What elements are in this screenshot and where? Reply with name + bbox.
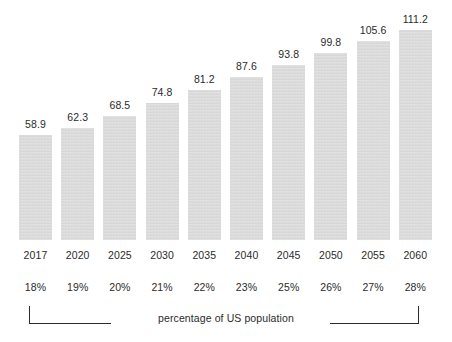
bracket-annotation-row: percentage of US population	[0, 306, 452, 336]
x-axis-percent-label: 19%	[54, 281, 101, 293]
x-axis-year-labels: 2017202020252030203520402045205020552060	[0, 249, 452, 263]
bar[interactable]	[19, 135, 52, 240]
x-axis-percent-label: 23%	[223, 281, 270, 293]
bar-value-label: 87.6	[223, 60, 270, 72]
bar-value-label: 74.8	[139, 86, 186, 98]
x-axis-year-label: 2045	[265, 249, 312, 261]
bar-value-label: 58.9	[12, 118, 59, 130]
bar[interactable]	[61, 128, 94, 240]
bar-group: 68.5	[103, 0, 136, 240]
bar-value-label: 93.8	[265, 48, 312, 60]
x-axis-percent-label: 25%	[265, 281, 312, 293]
bar-group: 74.8	[146, 0, 179, 240]
bar-value-label: 62.3	[54, 111, 101, 123]
bar-group: 81.2	[188, 0, 221, 240]
bar-group: 58.9	[19, 0, 52, 240]
bar-group: 105.6	[357, 0, 390, 240]
bar-value-label: 111.2	[392, 13, 439, 25]
bar-group: 111.2	[399, 0, 432, 240]
bar-group: 93.8	[272, 0, 305, 240]
bar-value-label: 68.5	[96, 99, 143, 111]
bar[interactable]	[188, 90, 221, 240]
x-axis-percent-label: 21%	[139, 281, 186, 293]
bar[interactable]	[357, 41, 390, 240]
x-axis-percent-label: 26%	[307, 281, 354, 293]
x-axis-year-label: 2040	[223, 249, 270, 261]
x-axis-percent-label: 22%	[181, 281, 228, 293]
bar-group: 62.3	[61, 0, 94, 240]
x-axis-year-label: 2055	[350, 249, 397, 261]
bar[interactable]	[146, 103, 179, 240]
bar[interactable]	[399, 30, 432, 240]
x-axis-percent-label: 28%	[392, 281, 439, 293]
bar[interactable]	[230, 77, 263, 240]
x-axis-year-label: 2060	[392, 249, 439, 261]
bar-group: 87.6	[230, 0, 263, 240]
x-axis-year-label: 2050	[307, 249, 354, 261]
x-axis-percent-label: 18%	[12, 281, 59, 293]
bar-value-label: 81.2	[181, 73, 228, 85]
x-axis-year-label: 2017	[12, 249, 59, 261]
chart-caption: percentage of US population	[0, 306, 452, 330]
x-axis-year-label: 2030	[139, 249, 186, 261]
x-axis-percent-label: 20%	[96, 281, 143, 293]
bar[interactable]	[103, 116, 136, 240]
bar-group: 99.8	[314, 0, 347, 240]
bar[interactable]	[314, 53, 347, 240]
bar-chart: 58.962.368.574.881.287.693.899.8105.6111…	[0, 0, 452, 342]
x-axis-year-label: 2035	[181, 249, 228, 261]
x-axis-year-label: 2025	[96, 249, 143, 261]
x-axis-percent-labels: 18%19%20%21%22%23%25%26%27%28%	[0, 281, 452, 295]
x-axis-percent-label: 27%	[350, 281, 397, 293]
bar-value-label: 99.8	[307, 36, 354, 48]
plot-area: 58.962.368.574.881.287.693.899.8105.6111…	[0, 0, 452, 240]
x-axis-year-label: 2020	[54, 249, 101, 261]
bar[interactable]	[272, 65, 305, 240]
bar-value-label: 105.6	[350, 24, 397, 36]
